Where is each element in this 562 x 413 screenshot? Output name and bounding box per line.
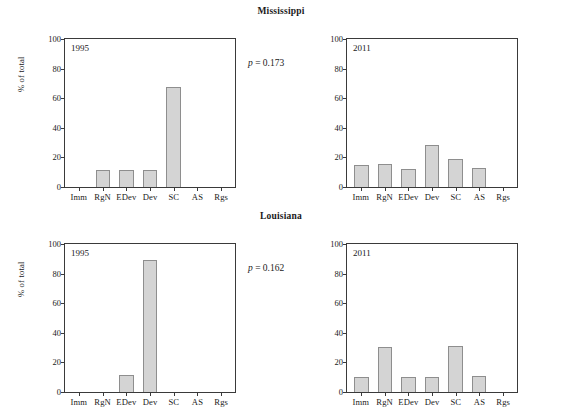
x-axis-ticks: ImmRgNEDevDevSCASRgs	[64, 393, 236, 413]
y-tick-mark	[61, 333, 65, 334]
x-tick-label: EDev	[116, 397, 136, 407]
x-tick-mark	[126, 188, 127, 191]
bar-cell	[68, 39, 91, 187]
bar-cell	[209, 39, 232, 187]
x-tick-mark	[456, 188, 457, 191]
bar-series	[65, 39, 235, 187]
y-tick-label: 80	[19, 269, 61, 278]
x-tick-mark	[456, 393, 457, 396]
bar-dev	[143, 170, 158, 187]
x-tick-label: Dev	[143, 192, 158, 202]
bar-rgn	[378, 347, 393, 392]
x-tick-mark	[221, 188, 222, 191]
bar-dev	[143, 260, 158, 392]
y-tick-label: 0	[301, 183, 343, 192]
panel-mississippi-2011: 2011 020406080100 ImmRgNEDevDevSCASRgs	[300, 30, 525, 200]
bar-edev	[401, 169, 416, 188]
y-tick-mark	[61, 39, 65, 40]
bar-dev	[425, 145, 440, 187]
x-tick-cell: RgN	[91, 393, 115, 413]
x-tick-label: AS	[192, 397, 203, 407]
y-tick-mark	[343, 98, 347, 99]
bar-cell	[350, 244, 373, 392]
y-tick-label: 80	[19, 64, 61, 73]
x-tick-cell: Imm	[349, 393, 373, 413]
y-tick-label: 80	[301, 64, 343, 73]
bar-cell	[373, 39, 396, 187]
x-tick-label: Imm	[71, 192, 88, 202]
x-tick-label: EDev	[398, 397, 418, 407]
x-tick-cell: RgN	[373, 393, 397, 413]
y-tick-label: 100	[301, 240, 343, 249]
bar-rgn	[96, 170, 111, 187]
x-tick-mark	[126, 393, 127, 396]
x-axis-ticks: ImmRgNEDevDevSCASRgs	[346, 393, 518, 413]
bar-as	[472, 168, 487, 187]
plot-area: 2011 020406080100	[346, 38, 518, 188]
x-tick-cell: AS	[468, 393, 492, 413]
x-tick-label: AS	[474, 192, 485, 202]
y-tick-label: 20	[301, 358, 343, 367]
x-tick-label: Imm	[71, 397, 88, 407]
bar-cell	[162, 39, 185, 187]
bar-dev	[425, 377, 440, 392]
bar-rgn	[378, 164, 393, 187]
bar-cell	[420, 244, 443, 392]
x-tick-mark	[197, 188, 198, 191]
figure-panel-grid: Mississippi p = 0.173 % of total 1995 02…	[0, 0, 562, 413]
x-tick-label: SC	[450, 397, 461, 407]
x-tick-mark	[408, 393, 409, 396]
x-tick-mark	[408, 188, 409, 191]
x-tick-label: EDev	[398, 192, 418, 202]
bar-cell	[373, 244, 396, 392]
y-tick-label: 80	[301, 269, 343, 278]
x-tick-mark	[103, 188, 104, 191]
y-tick-mark	[343, 39, 347, 40]
bar-cell	[185, 39, 208, 187]
bar-series	[347, 244, 517, 392]
y-tick-label: 40	[301, 329, 343, 338]
x-tick-label: RgN	[94, 397, 111, 407]
x-tick-mark	[174, 188, 175, 191]
x-tick-label: RgN	[94, 192, 111, 202]
panel-mississippi-1995: % of total 1995 020406080100 ImmRgNEDevD…	[18, 30, 243, 200]
bar-cell	[491, 244, 514, 392]
y-tick-label: 60	[301, 94, 343, 103]
bar-cell	[138, 244, 161, 392]
bar-cell	[185, 244, 208, 392]
x-tick-mark	[503, 393, 504, 396]
bar-cell	[115, 39, 138, 187]
bar-cell	[420, 39, 443, 187]
bar-sc	[448, 159, 463, 187]
bar-edev	[119, 375, 134, 392]
y-tick-label: 100	[19, 35, 61, 44]
y-tick-mark	[343, 362, 347, 363]
x-tick-label: Rgs	[496, 397, 510, 407]
y-tick-mark	[343, 303, 347, 304]
bar-cell	[444, 39, 467, 187]
x-tick-cell: SC	[444, 393, 468, 413]
x-tick-mark	[150, 393, 151, 396]
x-tick-label: RgN	[376, 192, 393, 202]
x-tick-label: SC	[450, 192, 461, 202]
plot-area: 2011 020406080100	[346, 243, 518, 393]
x-tick-mark	[479, 393, 480, 396]
y-tick-label: 20	[301, 153, 343, 162]
x-tick-cell: EDev	[114, 393, 138, 413]
x-tick-cell: SC	[162, 393, 186, 413]
y-tick-label: 60	[301, 299, 343, 308]
bar-series	[65, 244, 235, 392]
y-tick-mark	[343, 244, 347, 245]
p-value-text: = 0.162	[253, 263, 284, 273]
p-value-text: = 0.173	[253, 58, 284, 68]
bar-cell	[467, 244, 490, 392]
y-tick-mark	[61, 98, 65, 99]
x-tick-mark	[197, 393, 198, 396]
x-tick-label: Rgs	[214, 192, 228, 202]
x-tick-mark	[432, 188, 433, 191]
y-tick-label: 0	[19, 388, 61, 397]
x-tick-cell: Dev	[138, 393, 162, 413]
x-tick-label: Dev	[425, 192, 440, 202]
y-tick-label: 40	[19, 124, 61, 133]
x-tick-label: AS	[474, 397, 485, 407]
